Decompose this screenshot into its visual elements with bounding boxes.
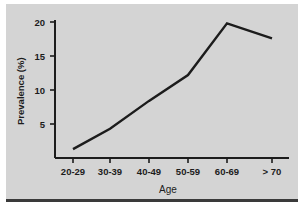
x-tick-label-50-59: 50-59 — [176, 166, 200, 177]
y-tick-label-20: 20 — [34, 17, 45, 28]
y-axis-title: Prevalence (%) — [15, 57, 26, 125]
x-tick-label-30-39: 30-39 — [98, 166, 122, 177]
x-axis-title: Age — [159, 184, 177, 195]
y-tick-label-15: 15 — [34, 51, 45, 62]
x-tick-label-60-69: 60-69 — [215, 166, 239, 177]
line-chart-plot: 20 15 10 5 Prevalence (%) 20-29 30-39 40… — [0, 0, 304, 210]
y-tick-label-10: 10 — [34, 85, 45, 96]
y-tick-label-5: 5 — [40, 119, 46, 130]
x-tick-label-over-70: > 70 — [263, 166, 282, 177]
x-tick-label-20-29: 20-29 — [61, 166, 85, 177]
chart-figure: 20 15 10 5 Prevalence (%) 20-29 30-39 40… — [0, 0, 304, 210]
prevalence-data-line — [73, 23, 272, 149]
x-tick-label-40-49: 40-49 — [137, 166, 161, 177]
